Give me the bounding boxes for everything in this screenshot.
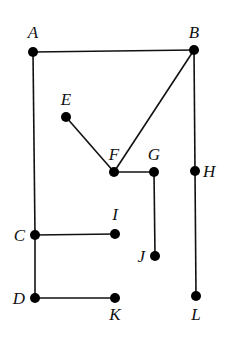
node-h (190, 166, 200, 176)
node-label-c: C (14, 226, 26, 245)
edge-a-c (33, 52, 35, 235)
graph-diagram: ABEFGHCIJDKL (0, 0, 225, 347)
edge-a-b (33, 50, 194, 52)
node-j (150, 251, 160, 261)
node-label-f: F (108, 145, 120, 164)
edge-b-h (194, 50, 195, 171)
node-label-l: L (190, 305, 200, 324)
node-a (28, 47, 38, 57)
node-l (191, 291, 201, 301)
node-label-d: D (12, 289, 26, 308)
node-c (30, 230, 40, 240)
node-g (149, 167, 159, 177)
node-f (109, 167, 119, 177)
node-label-e: E (60, 90, 72, 109)
edge-h-l (195, 171, 196, 296)
edge-g-j (154, 172, 155, 256)
node-label-k: K (108, 305, 122, 324)
graph-canvas: ABEFGHCIJDKL (0, 0, 225, 347)
node-i (110, 229, 120, 239)
node-label-b: B (189, 23, 200, 42)
node-label-h: H (202, 162, 217, 181)
node-label-g: G (148, 145, 160, 164)
node-b (189, 45, 199, 55)
edge-e-f (66, 117, 114, 172)
nodes-group (28, 45, 201, 303)
node-label-a: A (27, 23, 39, 42)
node-label-j: J (137, 247, 146, 266)
node-d (30, 293, 40, 303)
edge-c-i (35, 234, 115, 235)
node-label-i: I (111, 205, 119, 224)
node-k (110, 293, 120, 303)
node-e (61, 112, 71, 122)
